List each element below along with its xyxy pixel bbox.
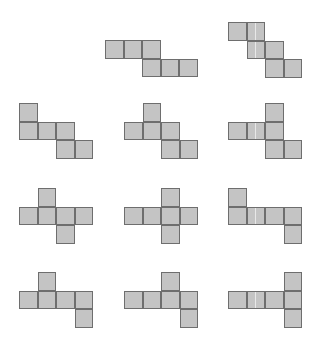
net-square [180,140,199,159]
net-square [284,309,303,328]
net-square [228,188,247,207]
net-square [247,22,266,41]
net-square [19,207,38,226]
net-square [161,59,180,78]
net-square [265,291,284,310]
net-square [75,291,94,310]
net-square [124,122,143,141]
net-square [143,122,162,141]
net-square [161,291,180,310]
net-square [161,188,180,207]
net-square [284,272,303,291]
net-square [142,40,161,59]
net-square [56,207,75,226]
net-square [180,207,199,226]
net-square [105,40,124,59]
net-square [56,140,75,159]
net-square [124,291,143,310]
net-square [284,225,303,244]
net-square [265,41,284,60]
net-square [38,122,57,141]
net-square [142,59,161,78]
net-square [161,225,180,244]
net-square [180,309,199,328]
net-square [143,291,162,310]
net-square [284,59,303,78]
net-square [284,291,303,310]
net-square [161,272,180,291]
net-square [38,188,57,207]
net-square [38,272,57,291]
net-square [124,207,143,226]
net-square [161,122,180,141]
net-square [284,140,303,159]
net-square [247,207,266,226]
net-square [228,207,247,226]
net-square [19,103,38,122]
net-square [265,207,284,226]
net-square [247,41,266,60]
net-square [228,291,247,310]
net-square [265,103,284,122]
net-square [38,207,57,226]
net-square [75,207,94,226]
net-square [19,291,38,310]
net-square [179,59,198,78]
net-square [161,207,180,226]
net-square [228,22,247,41]
net-square [228,122,247,141]
net-square [143,103,162,122]
net-square [265,122,284,141]
net-square [56,291,75,310]
net-square [38,291,57,310]
net-square [284,207,303,226]
net-square [75,140,94,159]
net-square [265,59,284,78]
net-square [124,40,143,59]
net-square [161,140,180,159]
net-square [143,207,162,226]
net-square [56,225,75,244]
net-square [19,122,38,141]
net-square [180,291,199,310]
net-square [247,291,266,310]
net-square [56,122,75,141]
net-square [265,140,284,159]
net-square [247,122,266,141]
net-square [75,309,94,328]
